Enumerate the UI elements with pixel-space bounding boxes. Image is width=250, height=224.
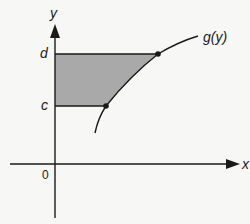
point-lower	[103, 103, 109, 109]
point-upper	[155, 51, 161, 57]
level-c-label: c	[41, 98, 48, 112]
diagram-figure: y d c 0 x g(y)	[0, 0, 250, 224]
shaded-region	[55, 54, 158, 106]
y-axis-label: y	[50, 6, 57, 20]
origin-label: 0	[42, 169, 49, 181]
x-axis-label: x	[242, 157, 249, 171]
y-axis-arrow-icon	[50, 24, 60, 38]
x-axis-arrow-icon	[226, 159, 240, 169]
level-d-label: d	[40, 46, 48, 60]
curve-label: g(y)	[203, 30, 227, 44]
